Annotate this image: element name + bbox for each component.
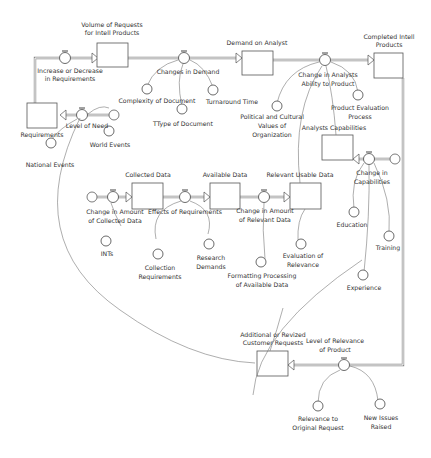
- cloud-icon: [109, 110, 119, 120]
- converter-collection-req: [153, 249, 163, 259]
- label-volume-1: Volume of Requests: [81, 21, 142, 29]
- label-relevant-usable: Relevant Usable Data: [267, 171, 334, 178]
- label-education: Education: [337, 221, 368, 228]
- stock-additional-requests: [257, 351, 288, 376]
- stock-completed-products: [374, 53, 403, 78]
- valve-level-relevance: [339, 358, 350, 371]
- converter-political: [272, 101, 282, 111]
- valve-change-relevant: [259, 190, 270, 203]
- converter-national-events: [46, 138, 56, 148]
- label-available: Available Data: [203, 171, 248, 178]
- label-eval-relevance-1: Evaluation of: [283, 252, 324, 259]
- label-collection-1: Collection: [145, 264, 176, 271]
- label-type-document: TType of Document: [152, 120, 213, 128]
- stock-available-data: [210, 183, 240, 209]
- label-political-2: Values of: [258, 122, 287, 129]
- label-additional-1: Additional or Revized: [240, 331, 306, 338]
- label-change-relevant-2: of Relevant Data: [239, 216, 291, 223]
- label-change-relevant-1: Change in Amount: [236, 207, 294, 215]
- label-new-issues-1: New Issues: [364, 414, 399, 421]
- label-relevance-original-1: Relevance to: [298, 415, 338, 422]
- cloud-icon: [390, 154, 400, 164]
- converter-relevance-original: [313, 401, 323, 411]
- label-increase-1: Increase or Decrease: [37, 67, 103, 74]
- label-formatting-1: Formatting Processing: [228, 272, 297, 280]
- valve-level-need: [77, 108, 88, 121]
- converter-eval-relevance: [296, 239, 306, 249]
- label-completed-2: Products: [376, 41, 403, 48]
- label-demand: Demand on Analyst: [227, 39, 288, 47]
- converter-ints: [101, 236, 111, 246]
- converter-type-document: [177, 104, 187, 114]
- label-product-eval-2: Process: [348, 113, 371, 120]
- label-research-1: Research: [197, 254, 225, 261]
- valve-change-collected: [108, 190, 119, 203]
- valve-effects-requirements: [180, 190, 191, 203]
- stock-collected-data: [132, 183, 163, 209]
- valve-change-capabilities: [364, 152, 375, 165]
- label-additional-2: Customer Requests: [243, 339, 303, 347]
- label-change-collected-2: of Collected Data: [88, 217, 142, 224]
- label-change-ability-2: Ability to Product: [301, 80, 355, 88]
- valve-increase-decrease: [60, 51, 71, 64]
- label-volume-2: for Intell Products: [85, 29, 140, 36]
- converter-new-issues: [375, 399, 385, 409]
- label-change-cap-2: Capabilities: [354, 178, 390, 186]
- stock-flow-diagram: Volume of Requests for Intell Products D…: [0, 0, 431, 458]
- stock-relevant-usable-data: [290, 183, 321, 209]
- label-political-3: Organization: [252, 131, 292, 139]
- label-research-2: Demands: [196, 263, 225, 270]
- valve-change-ability: [320, 53, 331, 66]
- stock-analysts-capabilities: [322, 135, 353, 160]
- converter-education: [349, 207, 359, 217]
- label-change-cap-1: Change in: [356, 169, 387, 177]
- stock-requirements: [27, 103, 57, 128]
- label-formatting-2: of Available Data: [236, 281, 289, 288]
- label-product-eval-1: Product Evaluation: [331, 104, 389, 111]
- converter-product-eval: [353, 90, 363, 100]
- label-relevance-original-2: Original Request: [292, 424, 344, 432]
- stock-demand-analyst: [242, 51, 273, 75]
- label-political-1: Political and Cultural: [240, 113, 304, 120]
- label-change-ability-1: Change in Analysts: [298, 71, 357, 79]
- label-completed-1: Completed Intell: [363, 33, 414, 41]
- label-analysts-capabilities: Analysts Capabilities: [302, 124, 366, 132]
- valve-changes-demand: [179, 51, 190, 64]
- label-world-events: World Events: [90, 141, 131, 148]
- converter-training: [384, 231, 394, 241]
- converter-experience: [358, 270, 368, 280]
- label-level-need: Level of Need: [66, 122, 108, 129]
- label-complexity: Complexity of Document: [119, 97, 196, 105]
- converter-turnaround: [208, 85, 218, 95]
- converter-formatting: [256, 257, 266, 267]
- label-national-events: National Events: [26, 161, 75, 168]
- label-training: Training: [375, 244, 400, 252]
- label-change-collected-1: Change in Amount: [86, 208, 144, 216]
- label-level-relevance-2: of Product: [319, 346, 351, 353]
- label-effects: Effects of Requirements: [148, 208, 222, 216]
- converter-complexity: [142, 84, 152, 94]
- label-requirements: Requirements: [20, 131, 63, 139]
- label-turnaround: Turnaround Time: [205, 98, 258, 105]
- cloud-icon: [87, 192, 97, 202]
- label-changes-demand: Changes in Demand: [157, 68, 220, 76]
- label-new-issues-2: Raised: [371, 423, 392, 430]
- label-experience: Experience: [347, 284, 382, 292]
- stock-volume-requests: [97, 43, 128, 67]
- label-ints: INTs: [101, 250, 113, 257]
- label-collected: Collected Data: [125, 171, 171, 178]
- label-increase-2: in Requirements: [45, 75, 96, 83]
- label-collection-2: Requirements: [138, 273, 181, 281]
- label-level-relevance-1: Level of Relevance: [306, 337, 364, 344]
- converter-research-demands: [204, 239, 214, 249]
- label-eval-relevance-2: Relevance: [287, 261, 319, 268]
